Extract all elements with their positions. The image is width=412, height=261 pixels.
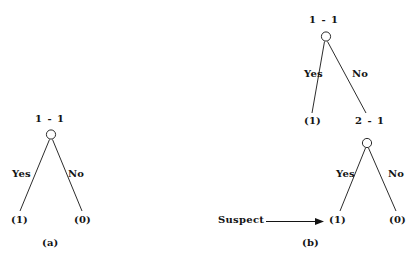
panel-b-upper-root-label: 1 - 1 [309,15,339,25]
panel-b-lower-leaf-label-left: (1) [329,215,346,225]
panel-b-lower-root-node-circle [362,138,371,147]
suspect-arrow-head [315,218,324,225]
panel-a-edge-label-yes: Yes [12,169,31,179]
panel-b-caption: (b) [302,238,319,248]
panel-b-lower-edge-yes-line [340,148,366,211]
suspect-input-label: Suspect [218,215,264,225]
suspect-input-arrow-icon [266,218,324,225]
panel-b-upper-edge-label-no: No [352,69,368,79]
panel-a-leaf-label-left: (1) [11,215,28,225]
panel-b-upper-leaf-label-left: (1) [304,116,321,126]
panel-b-upper-edge-label-yes: Yes [304,69,323,79]
panel-a-leaf-label-right: (0) [74,215,91,225]
panel-a-root-label: 1 - 1 [35,114,65,124]
panel-a-edge-label-no: No [68,169,84,179]
panel-b-lower-edge-no-line [369,148,397,211]
panel-b-upper-root-node-circle [321,32,330,41]
panel-a-caption: (a) [42,238,59,248]
panel-b-lower-edge-label-yes: Yes [336,169,355,179]
figure-canvas [0,0,412,261]
panel-b-upper-leaf-label-right: 2 - 1 [355,116,385,126]
panel-a-root-node-circle [46,130,55,139]
panel-b-lower-leaf-label-right: (0) [389,215,406,225]
panel-b-lower-edge-label-no: No [388,169,404,179]
